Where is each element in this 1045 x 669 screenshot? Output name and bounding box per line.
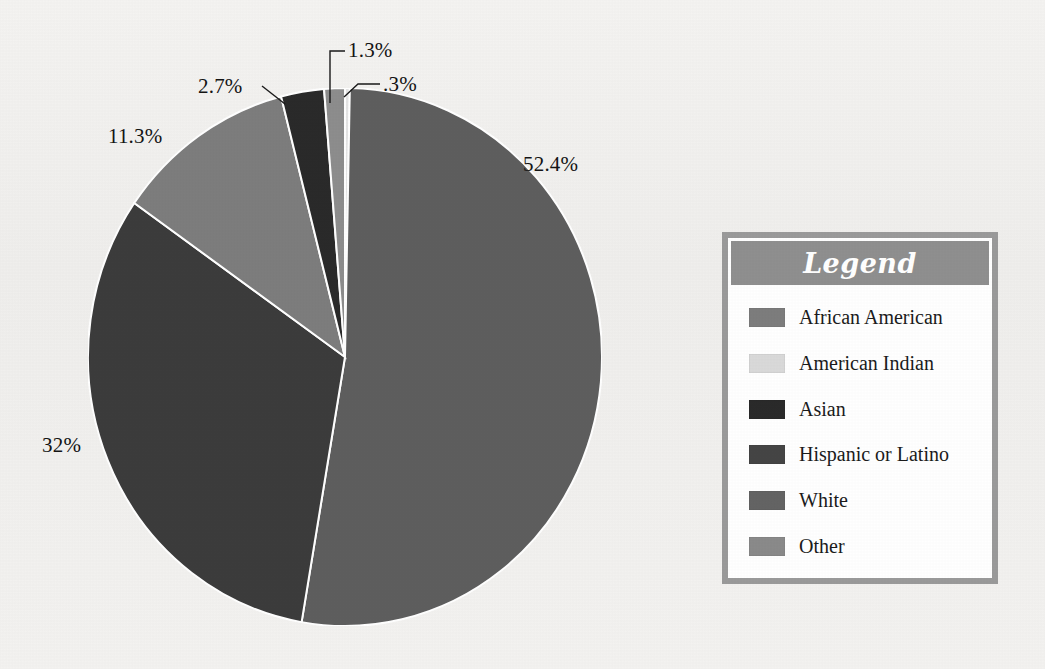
- legend-label-african-american: African American: [799, 306, 943, 329]
- legend-item-asian[interactable]: Asian: [749, 392, 989, 426]
- legend-label-hispanic-or-latino: Hispanic or Latino: [799, 443, 949, 466]
- legend-swatch-african-american: [749, 308, 785, 327]
- legend-inner-frame: Legend African American American Indian …: [728, 238, 992, 578]
- slice-label-african-american: 11.3%: [108, 124, 162, 149]
- legend-item-hispanic-or-latino[interactable]: Hispanic or Latino: [749, 438, 989, 472]
- legend-item-white[interactable]: White: [749, 483, 989, 517]
- legend-title: Legend: [803, 248, 917, 279]
- legend-swatch-american-indian: [749, 354, 785, 373]
- slice-label-american-indian: .3%: [383, 72, 417, 97]
- slice-label-white: 52.4%: [523, 152, 578, 177]
- legend-swatch-asian: [749, 400, 785, 419]
- legend-label-asian: Asian: [799, 398, 846, 421]
- legend-swatch-hispanic-or-latino: [749, 445, 785, 464]
- legend-label-american-indian: American Indian: [799, 352, 934, 375]
- chart-page: 52.4% 32% 11.3% 2.7% 1.3% .3% Legend Afr…: [0, 0, 1045, 669]
- legend-item-african-american[interactable]: African American: [749, 301, 989, 335]
- legend-item-other[interactable]: Other: [749, 529, 989, 563]
- slice-label-hispanic-or-latino: 32%: [42, 433, 81, 458]
- legend-swatch-other: [749, 537, 785, 556]
- legend-swatch-white: [749, 491, 785, 510]
- legend-box: Legend African American American Indian …: [722, 232, 998, 584]
- legend-label-white: White: [799, 489, 848, 512]
- legend-items: African American American Indian Asian H…: [731, 285, 989, 575]
- legend-item-american-indian[interactable]: American Indian: [749, 346, 989, 380]
- legend-label-other: Other: [799, 535, 845, 558]
- slice-label-other: 1.3%: [348, 38, 393, 63]
- slice-label-asian: 2.7%: [198, 74, 243, 99]
- legend-title-bar: Legend: [731, 241, 989, 285]
